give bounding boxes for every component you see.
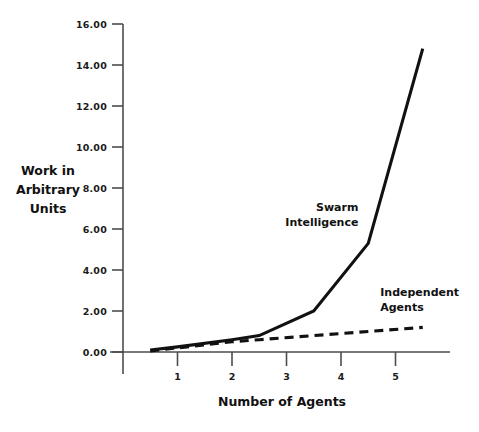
independent-annotation-line-1: Independent (380, 286, 459, 299)
y-tick-label: 0.00 (83, 347, 107, 358)
y-tick-label: 10.00 (76, 142, 107, 153)
swarm-annotation-line-1: Swarm (316, 201, 358, 214)
y-axis-title-line-1: Work in (21, 163, 75, 178)
y-axis-title: Work in Arbitrary Units (16, 163, 80, 216)
y-tick-label: 16.00 (76, 19, 107, 30)
x-tick-label: 5 (392, 371, 399, 382)
y-axis-title-line-2: Arbitrary (16, 182, 80, 197)
x-tick-label: 3 (283, 371, 290, 382)
y-tick-label: 4.00 (83, 265, 107, 276)
axis-lines-group (110, 24, 450, 374)
y-tick-label: 2.00 (83, 306, 107, 317)
y-tick-label: 14.00 (76, 60, 107, 71)
x-axis-title: Number of Agents (218, 394, 346, 409)
y-tick-label: 8.00 (83, 183, 107, 194)
line-chart-svg: Work in Arbitrary Units 0.002.004.006.00… (0, 0, 479, 432)
chart-figure: Work in Arbitrary Units 0.002.004.006.00… (0, 0, 479, 432)
independent-annotation-line-2: Agents (380, 301, 424, 314)
x-tick-label: 1 (174, 371, 181, 382)
y-axis-title-line-3: Units (30, 201, 67, 216)
y-tick-label: 6.00 (83, 224, 107, 235)
y-tick-label: 12.00 (76, 101, 107, 112)
annotations-group: SwarmIntelligenceIndependentAgents (285, 201, 459, 315)
series-line-independent-agents (150, 327, 423, 351)
x-tick-label: 2 (229, 371, 236, 382)
swarm-annotation-line-2: Intelligence (285, 216, 358, 229)
x-tick-label: 4 (338, 371, 345, 382)
